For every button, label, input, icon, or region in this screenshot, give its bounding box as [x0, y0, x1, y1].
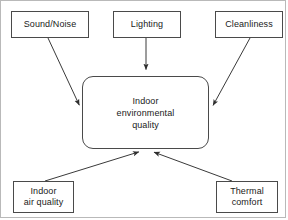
edge-thermal-comfort-to-ieq [154, 152, 232, 181]
node-indoor-air-quality[interactable]: Indoor air quality [13, 181, 74, 213]
diagram-canvas: Indoor environmental quality Sound/Noise… [0, 0, 288, 220]
node-indoor-environmental-quality[interactable]: Indoor environmental quality [82, 76, 209, 149]
node-cleanliness[interactable]: Cleanliness [215, 11, 283, 38]
edge-cleanliness-to-ieq [213, 38, 250, 105]
node-thermal-comfort[interactable]: Thermal comfort [216, 181, 278, 213]
edge-indoor-air-quality-to-ieq [45, 152, 139, 181]
node-lighting[interactable]: Lighting [113, 11, 181, 38]
node-sound-noise[interactable]: Sound/Noise [11, 11, 89, 38]
edge-sound-noise-to-ieq [48, 38, 79, 105]
